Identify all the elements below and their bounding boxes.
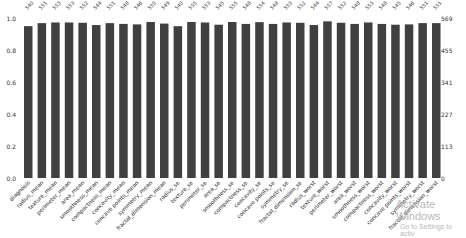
bar-smoothness_worst — [364, 22, 373, 178]
bar-compactness_se — [242, 24, 251, 178]
count-label: 549 — [160, 0, 171, 11]
bar-symmetry_mean — [146, 22, 155, 178]
count-label: 551 — [37, 0, 48, 11]
bar-symmetry_worst — [418, 23, 427, 178]
left-axis-tick: 0.8 — [6, 47, 16, 54]
bar-radius_se — [174, 26, 183, 178]
bar-fractal_dimension_worst — [432, 23, 441, 178]
bar-diagnosis — [24, 26, 33, 178]
bars — [24, 21, 441, 178]
bar-concavity_worst — [391, 25, 400, 178]
count-label: 554 — [255, 0, 266, 11]
bar-area_se — [214, 25, 223, 178]
left-axis-tick: 1.0 — [6, 15, 16, 22]
right-axis-tick: 0 — [441, 175, 445, 182]
count-label: 553 — [51, 0, 62, 11]
count-label: 552 — [296, 0, 307, 11]
count-label: 544 — [309, 0, 320, 11]
count-labels: 5405515535535525445515485465555495405555… — [24, 0, 443, 11]
bar-concave-points_se — [269, 24, 278, 178]
bar-smoothness_mean — [92, 25, 101, 178]
bar-radius_worst — [310, 25, 319, 178]
bar-concavity_mean — [119, 24, 128, 178]
activate-windows-watermark: Activate Windows Go to Settings to activ — [396, 198, 466, 237]
count-label: 548 — [269, 0, 280, 11]
bar-fractal_dimension_se — [296, 23, 305, 178]
right-axis-tick: 113 — [441, 143, 453, 150]
count-label: 552 — [78, 0, 89, 11]
count-label: 548 — [350, 0, 361, 11]
count-label: 553 — [364, 0, 375, 11]
count-label: 544 — [92, 0, 103, 11]
count-label: 540 — [173, 0, 184, 11]
count-label: 553 — [65, 0, 76, 11]
count-label: 546 — [133, 0, 144, 11]
count-label: 548 — [377, 0, 388, 11]
count-label: 551 — [418, 0, 429, 11]
count-label: 551 — [105, 0, 116, 11]
bar-concave-points_mean — [133, 24, 142, 178]
right-axis-tick: 455 — [441, 47, 453, 54]
count-label: 548 — [241, 0, 252, 11]
count-label: 540 — [24, 0, 35, 11]
count-label: 553 — [282, 0, 293, 11]
right-axis-tick: 227 — [441, 111, 453, 118]
bar-perimeter_worst — [337, 23, 346, 178]
count-label: 555 — [146, 0, 157, 11]
right-axis-tick: 569 — [441, 15, 453, 22]
bar-compactness_mean — [106, 23, 115, 178]
count-label: 551 — [432, 0, 443, 11]
count-label: 552 — [337, 0, 348, 11]
count-label: 553 — [201, 0, 212, 11]
bar-perimeter_mean — [65, 22, 74, 178]
right-axis-tick: 341 — [441, 79, 453, 86]
bar-area_mean — [78, 23, 87, 178]
count-label: 557 — [323, 0, 334, 11]
bar-area_worst — [350, 24, 359, 178]
left-axis-tick: 0.4 — [6, 111, 16, 118]
bar-fractal_dimension_mean — [160, 24, 169, 178]
count-label: 548 — [119, 0, 130, 11]
bar-radius_mean — [38, 23, 47, 178]
left-axis-tick: 0.2 — [6, 143, 16, 150]
left-axis-tick: 0.6 — [6, 79, 16, 86]
left-axis: 0.00.20.40.60.81.0 — [6, 15, 16, 182]
left-axis-tick: 0.0 — [6, 175, 16, 182]
count-label: 546 — [405, 0, 416, 11]
bar-compactness_worst — [378, 24, 387, 178]
count-label: 555 — [228, 0, 239, 11]
watermark-line2: Go to Settings to activ — [396, 223, 466, 237]
bar-texture_worst — [323, 21, 332, 178]
bar-smoothness_se — [228, 22, 237, 178]
count-label: 545 — [391, 0, 402, 11]
count-label: 555 — [187, 0, 198, 11]
bar-perimeter_se — [201, 22, 210, 178]
bar-texture_mean — [51, 22, 60, 178]
bar-symmetry_se — [282, 22, 291, 178]
count-label: 545 — [214, 0, 225, 11]
watermark-line1: Activate Windows — [396, 198, 466, 222]
right-axis: 0113227341455569 — [441, 15, 453, 182]
column-labels: diagnosisradius_meantexture_meanperimete… — [8, 179, 440, 232]
bar-concave-points_worst — [405, 24, 414, 178]
bar-concavity_se — [255, 22, 264, 178]
bar-texture_se — [187, 22, 196, 178]
